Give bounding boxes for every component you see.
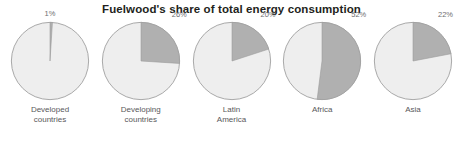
pie-chart-developed-countries: 1% [8,19,92,103]
pie-value-label: 1% [45,10,56,18]
pie-panel-asia: 22% Asia [369,19,457,115]
pie-panel-developed-countries: 1% Developed countries [6,19,94,125]
pie-category-label: Asia [405,105,421,115]
pie-chart-asia: 22% [371,19,455,103]
pie-svg-developed-countries [8,19,92,103]
pie-panels-row: 1% Developed countries 26% Developing co… [0,19,463,145]
pie-value-label: 52% [351,11,366,19]
pie-panel-africa: 52% Africa [278,19,366,115]
pie-value-label: 26% [172,11,187,19]
pie-category-label: Developing countries [121,105,161,125]
pie-svg-latin-america [190,19,274,103]
pie-value-slice [317,22,360,99]
pie-value-label: 22% [438,11,453,19]
pie-svg-africa [280,19,364,103]
pie-value-label: 20% [260,11,275,19]
pie-svg-developing-countries [99,19,183,103]
pie-value-slice [141,22,180,63]
pie-category-label: Developed countries [31,105,69,125]
pie-chart-africa: 52% [280,19,364,103]
pie-category-label: Africa [312,105,332,115]
pie-panel-developing-countries: 26% Developing countries [97,19,185,125]
pie-chart-latin-america: 20% [190,19,274,103]
chart-title: Fuelwood's share of total energy consump… [0,3,463,15]
pie-chart-developing-countries: 26% [99,19,183,103]
pie-svg-asia [371,19,455,103]
pie-panel-latin-america: 20% Latin America [188,19,276,125]
fuelwood-share-pie-chart: Fuelwood's share of total energy consump… [0,0,463,145]
pie-category-label: Latin America [217,105,246,125]
